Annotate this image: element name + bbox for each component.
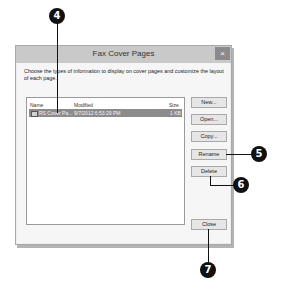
fax-cover-pages-dialog: Fax Cover Pages × Choose the types of in…: [15, 45, 232, 245]
cover-page-file-icon: [31, 111, 38, 117]
delete-button[interactable]: Delete: [191, 166, 227, 177]
copy-button[interactable]: Copy...: [191, 131, 227, 142]
callout-5-badge: 5: [251, 146, 267, 162]
dialog-title: Fax Cover Pages: [16, 49, 231, 58]
callout-4-leader-line: [57, 22, 58, 113]
file-size: 1 KB: [170, 110, 181, 116]
list-item[interactable]: RS Cover Pa... 9/7/2012 6:53:29 PM 1 KB: [29, 109, 182, 117]
cover-pages-list[interactable]: Name Modified Size RS Cover Pa... 9/7/20…: [26, 97, 185, 225]
rename-button[interactable]: Rename: [191, 149, 227, 160]
close-icon[interactable]: ×: [215, 47, 230, 60]
file-name: RS Cover Pa...: [39, 110, 72, 116]
file-modified: 9/7/2012 6:53:29 PM: [74, 110, 120, 116]
title-bar: Fax Cover Pages ×: [16, 46, 231, 63]
column-header-size[interactable]: Size: [169, 102, 179, 108]
callout-7-badge: 7: [200, 262, 216, 278]
column-header-name[interactable]: Name: [30, 102, 43, 108]
description-text: Choose the types of information to displ…: [24, 68, 224, 82]
dialog-body: Choose the types of information to displ…: [17, 63, 230, 243]
close-button[interactable]: Close: [191, 219, 227, 230]
open-button[interactable]: Open...: [191, 114, 227, 125]
callout-7-leader-line: [208, 229, 209, 263]
column-header-modified[interactable]: Modified: [74, 102, 93, 108]
callout-6-badge: 6: [233, 177, 249, 193]
new-button[interactable]: New...: [191, 97, 227, 108]
callout-5-leader-line: [226, 154, 254, 155]
callout-6-leader-line-vertical: [210, 176, 211, 185]
callout-4-badge: 4: [49, 8, 65, 24]
